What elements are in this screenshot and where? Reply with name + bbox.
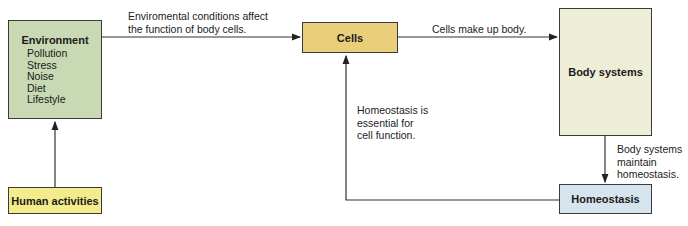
edge-label-line: Homeostasis is bbox=[357, 104, 428, 117]
cells-to-body-label: Cells make up body. bbox=[432, 23, 526, 36]
human-activities-node: Human activities bbox=[8, 187, 102, 214]
environment-factor: Pollution bbox=[27, 48, 67, 60]
environment-factor-list: Pollution Stress Noise Diet Lifestyle bbox=[9, 48, 67, 106]
edge-label-line: Enviromental conditions affect bbox=[128, 10, 268, 23]
cells-title: Cells bbox=[337, 32, 363, 44]
environment-title: Environment bbox=[21, 34, 88, 46]
env-to-cells-label: Enviromental conditions affect the funct… bbox=[128, 10, 268, 35]
environment-node: Environment Pollution Stress Noise Diet … bbox=[8, 20, 102, 119]
homeostasis-to-cells-label: Homeostasis is essential for cell functi… bbox=[357, 104, 428, 142]
body-systems-node: Body systems bbox=[559, 8, 652, 136]
environment-factor: Lifestyle bbox=[27, 94, 67, 106]
homeostasis-title: Homeostasis bbox=[571, 193, 639, 205]
body-systems-title: Body systems bbox=[568, 66, 643, 78]
human-activities-title: Human activities bbox=[11, 195, 98, 207]
homeostasis-node: Homeostasis bbox=[559, 184, 652, 214]
cells-node: Cells bbox=[302, 22, 398, 53]
edge-label-line: the function of body cells. bbox=[128, 23, 268, 36]
edge-label-line: essential for bbox=[357, 117, 428, 130]
edge-label-line: Body systems bbox=[617, 143, 682, 156]
edge-label-line: cell function. bbox=[357, 129, 428, 142]
edge-label-line: homeostasis. bbox=[617, 168, 682, 181]
edge-label-line: maintain bbox=[617, 156, 682, 169]
body-to-homeostasis-label: Body systems maintain homeostasis. bbox=[617, 143, 682, 181]
